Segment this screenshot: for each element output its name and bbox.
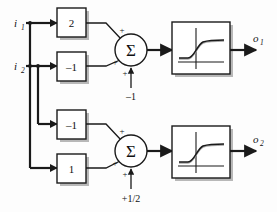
summation-node-sum2: Σ + + + xyxy=(112,126,147,179)
input-label-i2: i 2 xyxy=(14,60,25,75)
input-label-i2-text: i xyxy=(14,60,17,72)
activation-box-act1-rect xyxy=(172,22,230,74)
output-label-o1-text: o xyxy=(253,32,259,44)
wire-w12-to-sum2 xyxy=(86,124,121,140)
wire-w11-to-sum1 xyxy=(86,23,121,39)
junction-dot-i1 xyxy=(28,21,32,25)
sum2-sign-input-2: + xyxy=(112,158,117,168)
activation-box-act2-rect xyxy=(172,126,230,178)
output-label-o2-subscript: 2 xyxy=(260,139,264,148)
bias-label-sum1: –1 xyxy=(125,91,136,102)
sum1-sign-bias: + xyxy=(122,68,127,78)
input-label-i2-subscript: 2 xyxy=(21,66,25,75)
weight-box-w21-value: –1 xyxy=(65,61,77,73)
neural-network-diagram: i 1 i 2 2 xyxy=(0,0,277,212)
sum2-sign-input-1: + xyxy=(119,126,124,136)
sum1-sign-input-1: + xyxy=(119,25,124,35)
input-label-i1: i 1 xyxy=(14,17,25,32)
output-label-o1-subscript: 1 xyxy=(260,38,264,47)
junction-dot-i1-cross xyxy=(28,64,32,68)
activation-box-act1 xyxy=(172,22,233,77)
sigma-symbol-sum1: Σ xyxy=(126,41,136,60)
weight-box-w12: –1 xyxy=(57,110,89,142)
bias-label-sum2: +1/2 xyxy=(122,193,140,204)
sum1-sign-input-2: + xyxy=(112,57,117,67)
weight-box-w22: 1 xyxy=(57,154,89,186)
sum2-sign-bias: + xyxy=(122,169,127,179)
output-label-o2-text: o xyxy=(253,133,259,145)
activation-box-act2 xyxy=(172,126,233,181)
input-label-i1-subscript: 1 xyxy=(21,23,25,32)
input-label-i1-text: i xyxy=(14,17,17,29)
weight-box-w22-value: 1 xyxy=(69,163,75,175)
output-label-o2: o 2 xyxy=(253,133,264,148)
output-label-o1: o 1 xyxy=(253,32,264,47)
junction-dot-i2 xyxy=(36,64,40,68)
weight-box-w21: –1 xyxy=(57,52,89,84)
weight-box-w11: 2 xyxy=(57,8,89,40)
diagram-canvas: i 1 i 2 2 xyxy=(0,0,277,212)
summation-node-sum1: Σ + + + xyxy=(112,25,147,78)
sigma-symbol-sum2: Σ xyxy=(126,142,136,161)
weight-box-w11-value: 2 xyxy=(69,17,75,29)
weight-box-w12-value: –1 xyxy=(65,119,77,131)
